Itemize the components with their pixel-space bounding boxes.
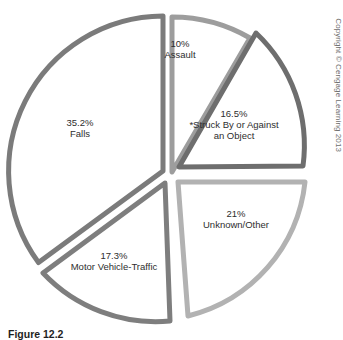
pie-label-motor-percent: 17.3% bbox=[44, 250, 184, 261]
pie-label-motor-name: Motor Vehicle-Traffic bbox=[44, 261, 184, 272]
pie-label-assault: 10% Assault bbox=[140, 38, 220, 60]
pie-label-struck-name-line2: an Object bbox=[168, 130, 300, 141]
copyright-notice: Copyright © Cengage Learning 2013 bbox=[334, 18, 343, 152]
pie-label-struck-name-line1: *Struck By or Against bbox=[168, 119, 300, 130]
figure-caption: Figure 12.2 bbox=[8, 328, 63, 340]
pie-label-struck: 16.5% *Struck By or Against an Object bbox=[168, 108, 300, 142]
pie-label-struck-percent: 16.5% bbox=[168, 108, 300, 119]
pie-label-unknown-name: Unknown/Other bbox=[176, 219, 296, 230]
pie-label-motor: 17.3% Motor Vehicle-Traffic bbox=[44, 250, 184, 272]
pie-slice-unknown[interactable] bbox=[178, 182, 305, 316]
pie-label-assault-percent: 10% bbox=[140, 38, 220, 49]
pie-label-falls-percent: 35.2% bbox=[38, 117, 122, 128]
pie-label-unknown: 21% Unknown/Other bbox=[176, 208, 296, 230]
pie-label-falls: 35.2% Falls bbox=[38, 117, 122, 139]
pie-label-falls-name: Falls bbox=[38, 128, 122, 139]
pie-label-assault-name: Assault bbox=[140, 49, 220, 60]
pie-label-unknown-percent: 21% bbox=[176, 208, 296, 219]
